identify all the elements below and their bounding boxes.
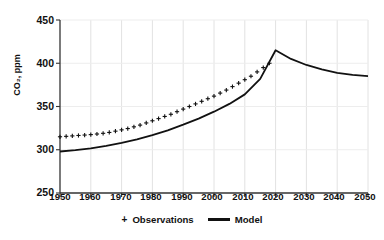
legend-item-observations: + Observations [122,214,194,225]
co2-chart: CO₂, ppm 450 400 350 300 250 1950 1960 1… [0,0,384,240]
axis-ticks [56,20,368,197]
plot-area [0,0,384,240]
legend-label-model: Model [235,214,263,225]
line-marker-icon [208,218,230,220]
chart-legend: + Observations Model [0,214,384,225]
x-tick-label: 2050 [345,191,384,202]
plus-marker-icon: + [122,216,128,224]
observation-markers [58,61,272,139]
legend-item-model: Model [208,214,263,225]
legend-label-observations: Observations [132,214,193,225]
gridlines [60,20,368,193]
